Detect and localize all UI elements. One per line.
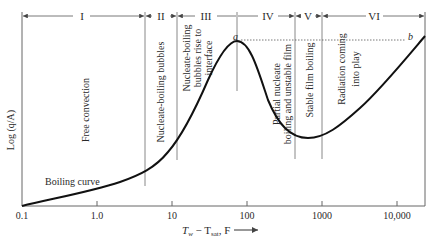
boiling-curve-diagram: 0.1 1.0 10 100 1000 10,000 Tw − Tsat, F …	[0, 0, 434, 244]
region-desc-nucleate-bubbles: Nucleate-boiling bubbles	[155, 41, 166, 142]
x-tick-label: 10,000	[383, 210, 411, 221]
y-axis-label: Log (q/A)	[5, 110, 17, 150]
region-descriptions: Free convection Nucleate-boiling bubbles…	[80, 24, 361, 144]
x-tick-label: 0.1	[16, 210, 29, 221]
x-label-unit: , F	[219, 224, 231, 236]
svg-text:Tw − Tsat, F: Tw − Tsat, F	[182, 224, 230, 238]
region-desc-line: Nucleate-boiling	[181, 24, 192, 91]
region-desc-free-convection: Free convection	[80, 78, 91, 142]
x-axis-label: Tw − Tsat, F	[182, 224, 258, 238]
region-desc-bubbles-rise: Nucleate-boiling bubbles rise to interfa…	[181, 24, 214, 91]
x-tick-labels: 0.1 1.0 10 100 1000 10,000	[16, 210, 411, 221]
region-label-iv: IV	[262, 10, 274, 22]
point-b-label: b	[408, 31, 413, 42]
region-label-iii: III	[201, 10, 212, 22]
region-desc-radiation: Radiation coming into play	[336, 33, 361, 104]
x-tick-label: 10	[167, 210, 177, 221]
x-tick-label: 100	[240, 210, 255, 221]
region-label-i: I	[80, 10, 84, 22]
region-label-v: V	[304, 10, 312, 22]
curve-label: Boiling curve	[45, 176, 100, 187]
x-label-sat: sat	[211, 230, 219, 238]
x-tick-label: 1.0	[91, 210, 104, 221]
region-desc-stable-film: Stable film boiling	[304, 43, 315, 118]
region-desc-partial-nucleate: Partial nucleate boiling and unstable fi…	[271, 44, 293, 144]
region-desc-line: into play	[350, 51, 361, 86]
x-label-minus: − T	[193, 224, 212, 236]
region-label-ii: II	[157, 10, 165, 22]
region-desc-line: bubbles rise to	[192, 29, 203, 87]
x-tick-label: 1000	[312, 210, 332, 221]
region-label-vi: VI	[368, 10, 380, 22]
x-ticks	[97, 201, 397, 206]
region-desc-line: Radiation coming	[336, 33, 347, 104]
